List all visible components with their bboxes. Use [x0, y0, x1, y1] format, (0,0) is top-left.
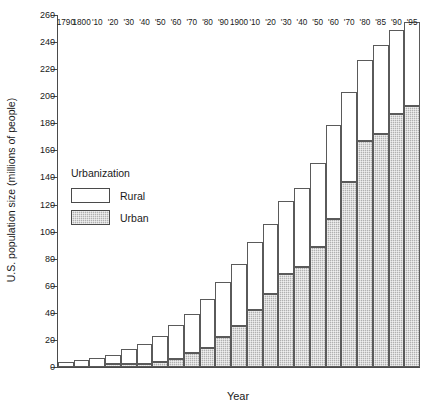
bar-segment-urban[interactable] — [373, 134, 389, 367]
bar-segment-rural[interactable] — [58, 362, 74, 367]
bar-segment-urban[interactable] — [137, 364, 153, 367]
bar-segment-urban[interactable] — [105, 364, 121, 367]
bar-segment-rural[interactable] — [278, 201, 294, 274]
bar-segment-rural[interactable] — [294, 188, 310, 267]
bar-group[interactable] — [341, 15, 357, 367]
x-axis-tick-label: '40 — [139, 19, 150, 27]
y-axis-tick-label: 0 — [50, 363, 55, 372]
bar-segment-urban[interactable] — [247, 310, 263, 367]
bar-segment-rural[interactable] — [326, 125, 342, 220]
bar-group[interactable] — [168, 15, 184, 367]
x-axis-tick-label: '30 — [281, 19, 292, 27]
y-axis-tick-label: 120 — [40, 200, 55, 209]
bar-segment-urban[interactable] — [200, 348, 216, 367]
bar-group[interactable] — [184, 15, 200, 367]
bar-segment-urban[interactable] — [326, 219, 342, 367]
x-axis-tick-label: '10 — [92, 19, 103, 27]
bar-segment-rural[interactable] — [215, 282, 231, 338]
bar-segment-urban[interactable] — [341, 182, 357, 367]
bar-group[interactable] — [357, 15, 373, 367]
bar-segment-rural[interactable] — [404, 22, 420, 106]
x-axis-tick-label: '20 — [265, 19, 276, 27]
bar-segment-urban[interactable] — [184, 353, 200, 367]
chart-figure: U.S. population size (millions of people… — [0, 0, 426, 412]
x-axis-title: Year — [57, 390, 419, 402]
x-axis-tick-label: '80 — [360, 19, 371, 27]
bar-segment-urban[interactable] — [310, 247, 326, 367]
bar-group[interactable] — [294, 15, 310, 367]
x-axis-tick-label: '60 — [328, 19, 339, 27]
legend-label-rural: Rural — [120, 190, 145, 202]
bar-segment-rural[interactable] — [310, 163, 326, 247]
bar-segment-rural[interactable] — [105, 355, 121, 364]
x-axis-tick-label: '70 — [186, 19, 197, 27]
bar-segment-rural[interactable] — [341, 92, 357, 181]
x-axis-tick-label: '20 — [108, 19, 119, 27]
bar-segment-urban[interactable] — [121, 364, 137, 367]
y-axis-tick-label: 220 — [40, 65, 55, 74]
bar-segment-urban[interactable] — [357, 141, 373, 367]
x-axis-tick-label: '80 — [202, 19, 213, 27]
bar-group[interactable] — [215, 15, 231, 367]
y-axis-tick-label: 240 — [40, 38, 55, 47]
chart-legend: Urbanization RuralUrban — [71, 167, 149, 232]
y-axis-title-label: U.S. population size (millions of people… — [5, 98, 17, 282]
bar-segment-urban[interactable] — [215, 337, 231, 367]
bar-segment-rural[interactable] — [74, 360, 90, 367]
bar-group[interactable] — [231, 15, 247, 367]
x-axis-tick-label: '85 — [375, 19, 386, 27]
bar-segment-urban[interactable] — [404, 106, 420, 367]
x-axis-tick-label: '30 — [123, 19, 134, 27]
bar-segment-urban[interactable] — [278, 274, 294, 367]
bar-segment-rural[interactable] — [121, 349, 137, 364]
x-axis-tick-label: '10 — [249, 19, 260, 27]
bar-group[interactable] — [310, 15, 326, 367]
legend-swatch-urban — [71, 210, 110, 225]
bar-group[interactable] — [278, 15, 294, 367]
x-axis-tick-label: '50 — [312, 19, 323, 27]
y-axis-tick-label: 80 — [45, 254, 55, 263]
y-axis-tick-label: 180 — [40, 119, 55, 128]
bar-segment-rural[interactable] — [247, 242, 263, 310]
bar-group[interactable] — [389, 15, 405, 367]
bar-segment-rural[interactable] — [184, 314, 200, 353]
bar-group[interactable] — [373, 15, 389, 367]
bar-segment-rural[interactable] — [389, 30, 405, 114]
legend-title: Urbanization — [71, 167, 149, 179]
bar-segment-urban[interactable] — [168, 359, 184, 367]
bar-segment-urban[interactable] — [263, 294, 279, 367]
y-axis-tick-label: 260 — [40, 11, 55, 20]
bar-segment-urban[interactable] — [294, 267, 310, 367]
x-axis-tick-label: '40 — [297, 19, 308, 27]
bar-segment-rural[interactable] — [357, 60, 373, 141]
bar-group[interactable] — [200, 15, 216, 367]
y-axis-tick-label: 160 — [40, 146, 55, 155]
bar-segment-rural[interactable] — [231, 264, 247, 326]
legend-label-urban: Urban — [120, 212, 149, 224]
legend-entry[interactable]: Rural — [71, 188, 149, 203]
bar-segment-rural[interactable] — [152, 336, 168, 362]
bar-group[interactable] — [263, 15, 279, 367]
bar-segment-rural[interactable] — [89, 358, 105, 367]
y-axis-tick-label: 100 — [40, 227, 55, 236]
x-axis-tick-label: '60 — [171, 19, 182, 27]
legend-entries: RuralUrban — [71, 188, 149, 225]
bar-segment-rural[interactable] — [137, 344, 153, 364]
x-axis-tick-label: '50 — [155, 19, 166, 27]
bar-group[interactable] — [326, 15, 342, 367]
y-axis-title: U.S. population size (millions of people… — [0, 0, 22, 380]
bar-group[interactable] — [404, 15, 420, 367]
bar-segment-urban[interactable] — [231, 326, 247, 367]
bar-segment-urban[interactable] — [389, 114, 405, 367]
bar-group[interactable] — [247, 15, 263, 367]
bar-group[interactable] — [152, 15, 168, 367]
bar-segment-rural[interactable] — [373, 45, 389, 134]
bar-segment-rural[interactable] — [200, 299, 216, 348]
legend-swatch-rural — [71, 188, 110, 203]
bar-segment-rural[interactable] — [168, 325, 184, 359]
x-axis-tick-label: '70 — [344, 19, 355, 27]
legend-entry[interactable]: Urban — [71, 210, 149, 225]
x-axis-tick-label: 1900 — [230, 19, 248, 27]
bar-segment-urban[interactable] — [152, 362, 168, 367]
bar-segment-rural[interactable] — [263, 224, 279, 294]
